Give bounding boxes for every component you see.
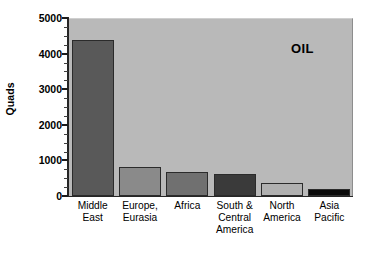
y-tick-minor	[64, 152, 68, 153]
y-tick-minor	[64, 143, 68, 144]
bar[interactable]	[72, 40, 114, 196]
bar[interactable]	[261, 183, 303, 196]
y-tick-minor	[64, 80, 68, 81]
y-tick-major	[62, 195, 68, 197]
y-tick-minor	[64, 107, 68, 108]
bar[interactable]	[308, 189, 350, 196]
x-tick-label: AsiaPacific	[301, 200, 358, 224]
y-tick-minor	[64, 98, 68, 99]
bar[interactable]	[166, 172, 208, 196]
y-tick-minor	[64, 63, 68, 64]
x-tick-label-line: Eurasia	[111, 212, 168, 224]
y-tick-minor	[64, 71, 68, 72]
bar[interactable]	[119, 167, 161, 196]
y-tick-major	[62, 159, 68, 161]
y-tick-minor	[64, 187, 68, 188]
x-tick-label-line: Pacific	[301, 212, 358, 224]
y-tick-minor	[64, 27, 68, 28]
y-tick-major	[62, 124, 68, 126]
series-annotation-oil: OIL	[291, 41, 314, 56]
y-tick-major	[62, 88, 68, 90]
y-tick-minor	[64, 178, 68, 179]
plot-area: OIL	[69, 18, 353, 196]
x-axis-category-labels: MiddleEastEurope,EurasiaAfricaSouth &Cen…	[69, 200, 353, 260]
y-tick-minor	[64, 36, 68, 37]
y-tick-minor	[64, 45, 68, 46]
y-tick-major	[62, 17, 68, 19]
y-tick-minor	[64, 116, 68, 117]
x-tick-label-line: America	[206, 224, 263, 236]
oil-reserves-bar-chart: Quads 010002000300040005000 OIL MiddleEa…	[0, 0, 368, 262]
bar[interactable]	[214, 174, 256, 196]
y-tick-major	[62, 53, 68, 55]
y-tick-minor	[64, 134, 68, 135]
x-tick-label-line: Asia	[301, 200, 358, 212]
y-tick-minor	[64, 169, 68, 170]
